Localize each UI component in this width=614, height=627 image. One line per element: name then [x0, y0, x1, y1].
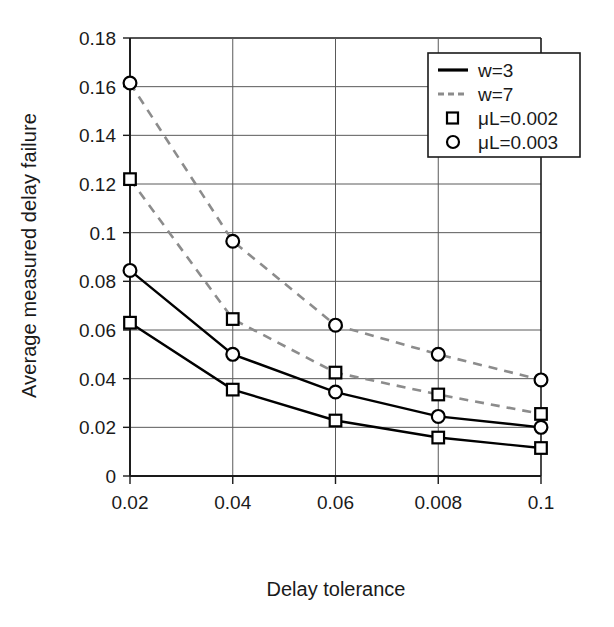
- legend-entry-label: w=7: [477, 84, 513, 105]
- data-point-marker-circle: [432, 410, 445, 423]
- data-point-marker-square: [227, 384, 239, 396]
- data-point-marker-square: [432, 389, 444, 401]
- data-point-marker-square: [535, 442, 547, 454]
- chart-figure: Average measured delay failure 00.020.04…: [0, 0, 614, 627]
- legend-swatch-circle: [447, 136, 459, 148]
- x-axis-tick-labels: 0.020.040.060.0080.1: [112, 476, 555, 513]
- data-point-marker-square: [330, 367, 342, 379]
- data-point-marker-square: [432, 432, 444, 444]
- legend-entry-label: μL=0.003: [478, 132, 558, 153]
- data-point-marker-square: [124, 317, 136, 329]
- y-axis-tick-label: 0.08: [79, 271, 116, 292]
- x-axis-tick-label: 0.02: [112, 492, 149, 513]
- data-point-marker-circle: [124, 264, 137, 277]
- data-point-marker-circle: [432, 348, 445, 361]
- data-point-marker-square: [227, 313, 239, 325]
- data-point-marker-square: [124, 173, 136, 185]
- data-point-marker-circle: [535, 421, 548, 434]
- y-axis-tick-labels: 00.020.040.060.080.10.120.140.160.18: [79, 28, 130, 487]
- data-point-marker-circle: [535, 373, 548, 386]
- x-axis-tick-label: 0.04: [214, 492, 251, 513]
- y-axis-tick-label: 0.1: [90, 223, 116, 244]
- y-axis-tick-label: 0.18: [79, 28, 116, 49]
- y-axis-tick-label: 0.16: [79, 77, 116, 98]
- x-axis-tick-label: 0.06: [317, 492, 354, 513]
- y-axis-tick-label: 0.06: [79, 320, 116, 341]
- data-point-marker-circle: [226, 348, 239, 361]
- x-axis-tick-label: 0.1: [528, 492, 554, 513]
- y-axis-tick-label: 0.14: [79, 125, 116, 146]
- y-axis-tick-label: 0.12: [79, 174, 116, 195]
- data-point-marker-circle: [329, 386, 342, 399]
- chart-legend: w=3w=7μL=0.002μL=0.003: [428, 53, 580, 157]
- y-axis-tick-label: 0.02: [79, 417, 116, 438]
- data-point-marker-square: [330, 415, 342, 427]
- data-point-marker-circle: [226, 235, 239, 248]
- legend-swatch-square: [447, 113, 458, 124]
- y-axis-title: Average measured delay failure: [19, 112, 42, 397]
- data-point-marker-square: [535, 408, 547, 420]
- legend-entry-label: μL=0.002: [478, 108, 558, 129]
- y-axis-tick-label: 0.04: [79, 369, 116, 390]
- plot-canvas: 00.020.040.060.080.10.120.140.160.18 0.0…: [0, 0, 614, 627]
- legend-entry-label: w=3: [477, 60, 513, 81]
- data-point-marker-circle: [124, 77, 137, 90]
- x-axis-tick-label: 0.008: [414, 492, 462, 513]
- y-axis-tick-label: 0: [105, 466, 116, 487]
- y-axis-title-container: Average measured delay failure: [0, 0, 60, 510]
- data-point-marker-circle: [329, 319, 342, 332]
- x-axis-title: Delay tolerance: [130, 578, 542, 601]
